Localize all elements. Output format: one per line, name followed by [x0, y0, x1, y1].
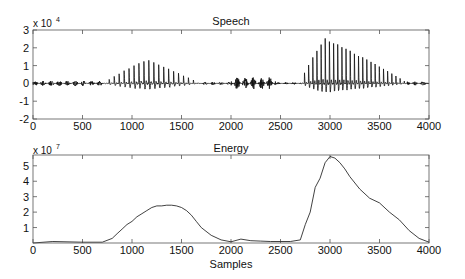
x-tick-label: 4000 — [417, 244, 441, 256]
x-tick-label: 0 — [30, 244, 36, 256]
y-tick-label: 0 — [23, 77, 29, 89]
speech-multiplier-label: x 10 — [33, 18, 52, 29]
x-tick-label: 0 — [30, 120, 36, 132]
y-tick-label: -2 — [19, 113, 29, 125]
y-tick-label: 1 — [23, 222, 29, 234]
x-tick-label: 3000 — [318, 244, 342, 256]
energy-multiplier-label: x 10 — [33, 145, 52, 156]
x-tick-label: 2000 — [219, 244, 243, 256]
y-tick-label: 2 — [23, 206, 29, 218]
x-tick-label: 3500 — [367, 244, 391, 256]
x-tick-label: 3500 — [367, 120, 391, 132]
x-tick-label: 500 — [73, 244, 91, 256]
y-tick-label: 3 — [23, 191, 29, 203]
y-tick-label: 3 — [23, 24, 29, 36]
energy-x-label: Samples — [210, 258, 253, 270]
x-tick-label: 1000 — [120, 120, 144, 132]
speech-multiplier-exponent: 4 — [56, 16, 60, 23]
x-tick-label: 2000 — [219, 120, 243, 132]
x-tick-label: 1500 — [169, 244, 193, 256]
y-tick-label: 4 — [23, 175, 29, 187]
x-tick-label: 4000 — [417, 120, 441, 132]
energy-multiplier-exponent: 7 — [56, 143, 60, 150]
x-tick-label: 1500 — [169, 120, 193, 132]
y-tick-label: 5 — [23, 160, 29, 172]
x-tick-label: 2500 — [268, 120, 292, 132]
y-tick-label: 2 — [23, 42, 29, 54]
x-tick-label: 2500 — [268, 244, 292, 256]
figure: Speech x 10 4 -2-10123 05001000150020002… — [0, 0, 465, 279]
y-tick-label: -1 — [19, 95, 29, 107]
y-tick-label: 1 — [23, 60, 29, 72]
x-tick-label: 3000 — [318, 120, 342, 132]
x-tick-label: 1000 — [120, 244, 144, 256]
x-tick-label: 500 — [73, 120, 91, 132]
energy-title: Energy — [214, 142, 249, 154]
speech-title: Speech — [212, 15, 249, 27]
